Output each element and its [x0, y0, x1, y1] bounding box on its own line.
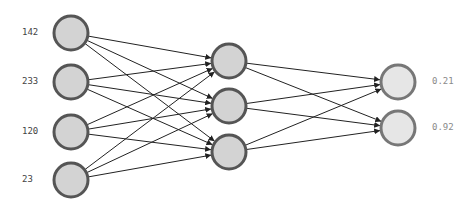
input-label-2: 233: [22, 76, 38, 86]
neuron-nodes: [54, 16, 415, 197]
edge-input1-hidden1: [88, 36, 212, 58]
input-label-3: 120: [22, 126, 38, 136]
edge-hidden3-output2: [246, 131, 380, 150]
hidden-node-2: [212, 89, 246, 123]
input-label-4: 23: [22, 174, 33, 184]
input-node-1: [54, 16, 88, 50]
edge-input3-hidden2: [88, 109, 211, 129]
edge-hidden1-output1: [246, 63, 380, 80]
output-node-1: [381, 65, 415, 99]
edge-input4-hidden1: [85, 72, 215, 170]
input-node-4: [54, 163, 88, 197]
input-label-1: 142: [22, 27, 38, 37]
hidden-node-1: [212, 44, 246, 78]
output-node-2: [381, 111, 415, 145]
output-label-2: 0.92: [432, 122, 454, 132]
output-label-1: 0.21: [432, 76, 454, 86]
input-node-2: [54, 65, 88, 99]
edge-input2-hidden2: [88, 85, 211, 104]
input-node-3: [54, 115, 88, 149]
hidden-node-3: [212, 135, 246, 169]
edge-hidden2-output1: [246, 85, 380, 104]
edge-hidden3-output1: [245, 89, 382, 146]
edge-input1-hidden2: [86, 40, 212, 98]
neural-network-diagram: [0, 0, 475, 214]
edge-input4-hidden3: [88, 155, 212, 177]
edge-input4-hidden2: [86, 114, 212, 173]
